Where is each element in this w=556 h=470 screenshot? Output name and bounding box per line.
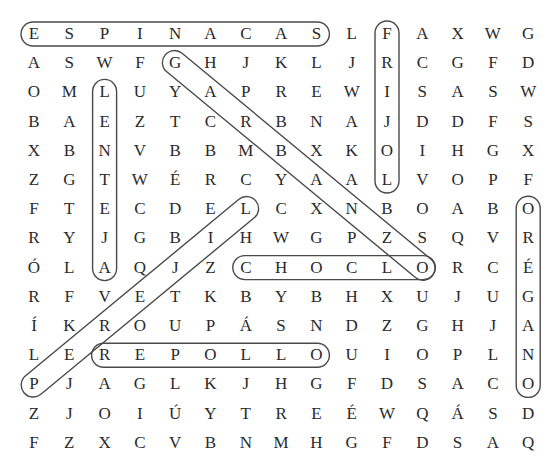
grid-letter[interactable]: A bbox=[196, 21, 226, 47]
grid-letter[interactable]: J bbox=[231, 50, 261, 76]
grid-letter[interactable]: L bbox=[337, 21, 367, 47]
grid-letter[interactable]: É bbox=[513, 255, 543, 281]
grid-letter[interactable]: Z bbox=[372, 313, 402, 339]
grid-letter[interactable]: R bbox=[266, 401, 296, 427]
grid-letter[interactable]: K bbox=[337, 138, 367, 164]
grid-letter[interactable]: N bbox=[160, 21, 190, 47]
grid-letter[interactable]: A bbox=[90, 255, 120, 281]
grid-letter[interactable]: B bbox=[54, 138, 84, 164]
grid-letter[interactable]: E bbox=[301, 401, 331, 427]
grid-letter[interactable]: B bbox=[160, 138, 190, 164]
grid-letter[interactable]: M bbox=[54, 79, 84, 105]
grid-letter[interactable]: C bbox=[196, 109, 226, 135]
grid-letter[interactable]: J bbox=[443, 284, 473, 310]
grid-letter[interactable]: P bbox=[231, 79, 261, 105]
grid-letter[interactable]: R bbox=[90, 313, 120, 339]
grid-letter[interactable]: U bbox=[478, 284, 508, 310]
grid-letter[interactable]: G bbox=[54, 167, 84, 193]
grid-letter[interactable]: Y bbox=[160, 79, 190, 105]
grid-letter[interactable]: O bbox=[125, 313, 155, 339]
grid-letter[interactable]: I bbox=[196, 225, 226, 251]
grid-letter[interactable]: Y bbox=[54, 225, 84, 251]
grid-letter[interactable]: L bbox=[478, 342, 508, 368]
grid-letter[interactable]: F bbox=[478, 109, 508, 135]
grid-letter[interactable]: Z bbox=[125, 109, 155, 135]
grid-letter[interactable]: A bbox=[54, 109, 84, 135]
grid-letter[interactable]: X bbox=[443, 21, 473, 47]
grid-letter[interactable]: C bbox=[125, 196, 155, 222]
grid-letter[interactable]: Y bbox=[266, 167, 296, 193]
grid-letter[interactable]: G bbox=[301, 371, 331, 397]
grid-letter[interactable]: N bbox=[337, 196, 367, 222]
grid-letter[interactable]: R bbox=[443, 255, 473, 281]
grid-letter[interactable]: F bbox=[19, 430, 49, 456]
grid-letter[interactable]: J bbox=[160, 255, 190, 281]
grid-letter[interactable]: B bbox=[196, 430, 226, 456]
grid-letter[interactable]: K bbox=[54, 313, 84, 339]
grid-letter[interactable]: S bbox=[478, 401, 508, 427]
grid-letter[interactable]: R bbox=[90, 342, 120, 368]
grid-letter[interactable]: D bbox=[337, 313, 367, 339]
grid-letter[interactable]: N bbox=[90, 138, 120, 164]
grid-letter[interactable]: Q bbox=[513, 430, 543, 456]
grid-letter[interactable]: A bbox=[443, 371, 473, 397]
grid-letter[interactable]: F bbox=[372, 21, 402, 47]
grid-letter[interactable]: B bbox=[266, 109, 296, 135]
grid-letter[interactable]: S bbox=[54, 50, 84, 76]
grid-letter[interactable]: F bbox=[19, 196, 49, 222]
grid-letter[interactable]: C bbox=[125, 430, 155, 456]
grid-letter[interactable]: R bbox=[231, 109, 261, 135]
grid-letter[interactable]: B bbox=[231, 284, 261, 310]
grid-letter[interactable]: N bbox=[301, 109, 331, 135]
grid-letter[interactable]: T bbox=[54, 196, 84, 222]
grid-letter[interactable]: O bbox=[301, 342, 331, 368]
grid-letter[interactable]: S bbox=[301, 21, 331, 47]
grid-letter[interactable]: Y bbox=[196, 401, 226, 427]
grid-letter[interactable]: O bbox=[513, 371, 543, 397]
grid-letter[interactable]: D bbox=[407, 109, 437, 135]
grid-letter[interactable]: B bbox=[266, 138, 296, 164]
grid-letter[interactable]: M bbox=[266, 430, 296, 456]
grid-letter[interactable]: C bbox=[407, 50, 437, 76]
grid-letter[interactable]: P bbox=[196, 313, 226, 339]
grid-letter[interactable]: T bbox=[90, 167, 120, 193]
grid-letter[interactable]: H bbox=[231, 225, 261, 251]
grid-letter[interactable]: K bbox=[196, 284, 226, 310]
grid-letter[interactable]: J bbox=[54, 371, 84, 397]
grid-letter[interactable]: J bbox=[478, 313, 508, 339]
grid-letter[interactable]: D bbox=[372, 371, 402, 397]
grid-letter[interactable]: H bbox=[443, 138, 473, 164]
grid-letter[interactable]: Á bbox=[231, 313, 261, 339]
grid-letter[interactable]: B bbox=[478, 196, 508, 222]
grid-letter[interactable]: L bbox=[54, 255, 84, 281]
grid-letter[interactable]: F bbox=[54, 284, 84, 310]
grid-letter[interactable]: G bbox=[478, 138, 508, 164]
grid-letter[interactable]: U bbox=[407, 284, 437, 310]
grid-letter[interactable]: B bbox=[196, 138, 226, 164]
grid-letter[interactable]: X bbox=[301, 196, 331, 222]
grid-letter[interactable]: E bbox=[301, 79, 331, 105]
grid-letter[interactable]: M bbox=[231, 138, 261, 164]
grid-letter[interactable]: L bbox=[266, 342, 296, 368]
grid-letter[interactable]: K bbox=[196, 371, 226, 397]
grid-letter[interactable]: W bbox=[125, 167, 155, 193]
grid-letter[interactable]: P bbox=[19, 371, 49, 397]
grid-letter[interactable]: O bbox=[90, 401, 120, 427]
grid-letter[interactable]: E bbox=[196, 196, 226, 222]
grid-letter[interactable]: X bbox=[90, 430, 120, 456]
grid-letter[interactable]: É bbox=[160, 167, 190, 193]
grid-letter[interactable]: P bbox=[90, 21, 120, 47]
grid-letter[interactable]: I bbox=[125, 21, 155, 47]
grid-letter[interactable]: J bbox=[337, 50, 367, 76]
grid-letter[interactable]: B bbox=[160, 225, 190, 251]
grid-letter[interactable]: I bbox=[372, 79, 402, 105]
grid-letter[interactable]: H bbox=[266, 255, 296, 281]
grid-letter[interactable]: S bbox=[266, 313, 296, 339]
grid-letter[interactable]: A bbox=[19, 50, 49, 76]
grid-letter[interactable]: G bbox=[513, 21, 543, 47]
grid-letter[interactable]: O bbox=[407, 255, 437, 281]
grid-letter[interactable]: U bbox=[337, 342, 367, 368]
grid-letter[interactable]: I bbox=[372, 342, 402, 368]
grid-letter[interactable]: S bbox=[407, 225, 437, 251]
grid-letter[interactable]: A bbox=[90, 371, 120, 397]
